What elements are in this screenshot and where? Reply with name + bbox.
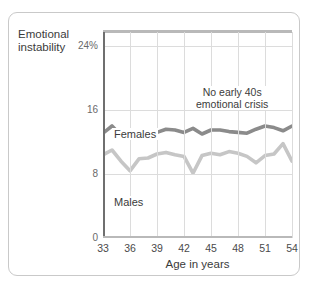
series-label-females: Females (112, 128, 158, 140)
x-tick-label: 36 (124, 242, 136, 254)
y-tick-label: 24% (78, 40, 98, 51)
series-label-males: Males (112, 196, 145, 208)
x-tick-label: 51 (259, 242, 271, 254)
x-tick-label: 39 (151, 242, 163, 254)
y-axis-tick-labels: 081624% (60, 30, 98, 238)
x-tick-label: 42 (178, 242, 190, 254)
x-tick-label: 48 (232, 242, 244, 254)
x-tick-label: 45 (205, 242, 217, 254)
y-tick-label: 16 (87, 104, 98, 115)
x-axis-title: Age in years (103, 258, 292, 270)
annotation-no-early-40s-crisis: No early 40s emotional crisis (196, 86, 268, 110)
y-tick-label: 8 (92, 168, 98, 179)
gridline-vertical (292, 32, 293, 238)
x-tick-label: 54 (286, 242, 298, 254)
x-tick-label: 33 (97, 242, 109, 254)
